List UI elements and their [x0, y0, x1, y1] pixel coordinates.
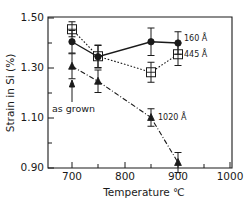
y-axis-title: Strain in Si (%)	[4, 54, 16, 132]
x-axis-minor-ticks	[98, 164, 204, 168]
datapoint-1020a-750	[95, 77, 102, 84]
datapoint-1020a-850	[148, 114, 155, 121]
datapoint-445a-850	[147, 68, 156, 77]
y-ticklabel-2: 1.10	[21, 111, 44, 123]
x-ticklabel-1: 800	[115, 170, 135, 182]
y-ticklabel-3: 0.90	[21, 161, 44, 173]
datapoint-160a-900	[175, 40, 181, 46]
series-445a-errorbars	[69, 22, 182, 83]
y-ticklabel-1: 1.30	[21, 61, 44, 73]
series-label-160a: 160 Å	[184, 32, 208, 43]
x-ticklabel-3: 1000	[217, 170, 244, 182]
x-ticklabel-0: 700	[62, 170, 82, 182]
datapoint-160a-850	[148, 39, 154, 45]
series-160a-errorbars	[69, 28, 182, 68]
y-axis-minor-ticks	[48, 43, 52, 143]
datapoint-1020a-700	[69, 62, 76, 69]
as-grown-annotation: as grown	[52, 80, 95, 114]
chart-figure: 1.50 1.30 1.10 0.90 700 800 900 1000 Tem…	[0, 0, 248, 204]
as-grown-label: as grown	[52, 103, 95, 114]
y-ticklabel-0: 1.50	[21, 11, 44, 23]
x-axis-title: Temperature ℃	[102, 186, 185, 198]
chart-plot-area: 1.50 1.30 1.10 0.90 700 800 900 1000 Tem…	[0, 0, 248, 204]
series-label-1020a: 1020 Å	[158, 111, 187, 122]
datapoint-160a-700	[69, 39, 75, 45]
series-label-445a: 445 Å	[184, 48, 208, 59]
series-160a	[69, 28, 182, 68]
datapoint-160a-750	[95, 54, 101, 60]
